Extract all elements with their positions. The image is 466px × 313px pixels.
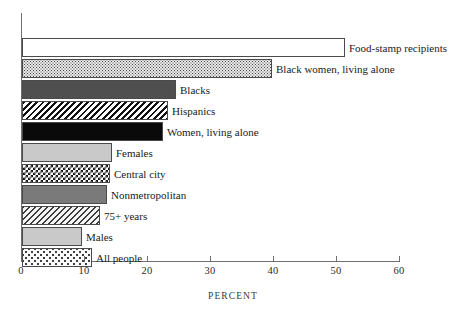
bar-males [22, 227, 82, 246]
x-tick [273, 256, 274, 262]
bar-label: All people [92, 252, 142, 264]
x-axis-title: PERCENT [0, 291, 466, 301]
bar-food-stamp-recipients [22, 38, 345, 57]
bar-label: 75+ years [100, 210, 147, 222]
x-tick [399, 256, 400, 262]
bar-black-women-living-alone [22, 59, 272, 78]
x-tick-label: 50 [331, 265, 342, 276]
bar-blacks [22, 80, 176, 99]
bar-label: Women, living alone [163, 126, 259, 138]
plot-area: Food-stamp recipients Black women, livin… [22, 13, 400, 261]
bar-label: Hispanics [168, 105, 215, 117]
bar-label: Blacks [176, 84, 210, 96]
bar-label: Females [112, 147, 153, 159]
x-tick-label: 10 [79, 265, 90, 276]
bar-females [22, 143, 112, 162]
x-tick [336, 256, 337, 262]
x-tick [84, 256, 85, 262]
x-tick-label: 60 [394, 265, 405, 276]
bar-central-city [22, 164, 110, 183]
bar-label: Food-stamp recipients [345, 42, 447, 54]
x-tick-label: 20 [142, 265, 153, 276]
bar-chart: Food-stamp recipients Black women, livin… [0, 0, 466, 313]
x-tick [21, 256, 22, 262]
x-tick-label: 0 [18, 265, 23, 276]
bar-label: Central city [110, 168, 166, 180]
x-tick [147, 256, 148, 262]
x-tick [210, 256, 211, 262]
x-tick-label: 30 [205, 265, 216, 276]
bar-nonmetropolitan [22, 185, 107, 204]
bar-label: Nonmetropolitan [107, 189, 186, 201]
bar-75-plus-years [22, 206, 100, 225]
bar-women-living-alone [22, 122, 163, 141]
x-tick-label: 40 [268, 265, 279, 276]
bar-label: Males [82, 231, 113, 243]
bar-hispanics [22, 101, 168, 120]
bar-label: Black women, living alone [272, 63, 395, 75]
